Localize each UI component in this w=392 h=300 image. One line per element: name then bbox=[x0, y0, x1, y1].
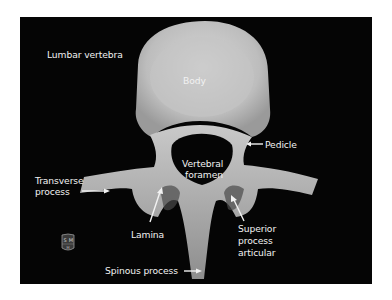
label-superior-process-line3: articular bbox=[238, 247, 276, 258]
lamina-arrow-icon bbox=[148, 187, 164, 223]
shield-logo-icon: S M H bbox=[61, 233, 75, 252]
transverse-process-arrow-icon bbox=[82, 188, 110, 194]
superior-process-arrow-icon bbox=[230, 195, 246, 223]
vertebra-photo: Lumbar vertebra Body Pedicle Vertebral f… bbox=[20, 17, 372, 284]
label-pedicle: Pedicle bbox=[265, 139, 297, 150]
label-superior-process-line2: process bbox=[238, 235, 273, 246]
label-transverse-process-line2: process bbox=[35, 186, 70, 197]
spinous-process-arrow-icon bbox=[184, 268, 202, 274]
logo-letter-m: M bbox=[69, 237, 73, 243]
label-spinous-process: Spinous process bbox=[105, 265, 178, 276]
logo-letter-h: H bbox=[66, 245, 69, 250]
label-vertebral-foramen-line1: Vertebral bbox=[182, 158, 223, 169]
logo-letter-s: S bbox=[63, 237, 66, 243]
figure-title: Lumbar vertebra bbox=[47, 49, 123, 60]
label-body: Body bbox=[183, 75, 206, 86]
label-vertebral-foramen-line2: foramen bbox=[185, 169, 223, 180]
label-superior-process-line1: Superior bbox=[238, 223, 276, 234]
label-transverse-process-line1: Transverse bbox=[35, 175, 84, 186]
label-lamina: Lamina bbox=[131, 229, 164, 240]
pedicle-arrow-icon bbox=[246, 141, 264, 147]
